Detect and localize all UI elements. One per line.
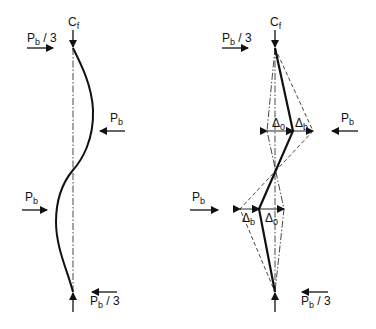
column-buckling-diagram: Cf Pb / 3 Pb Pb Pb / 3 xyxy=(0,0,376,329)
left-mid-upper-force-label: Pb xyxy=(110,111,123,127)
right-lower-deltab-label: Δb xyxy=(242,211,255,227)
left-bottom-force-label: Pb / 3 xyxy=(90,294,120,310)
right-mid-upper-force-label: Pb xyxy=(341,111,354,127)
right-panel: Δ0 Δb Δb Δ0 Cf Pb / 3 Pb Pb xyxy=(190,15,358,312)
right-bottom-force-label: Pb / 3 xyxy=(301,294,331,310)
left-mid-lower-force-label: Pb xyxy=(25,190,38,206)
right-top-load-label: Cf xyxy=(270,15,282,31)
left-top-force-label: Pb / 3 xyxy=(27,31,57,47)
right-top-force-label: Pb / 3 xyxy=(222,31,252,47)
right-lower-delta0-label: Δ0 xyxy=(265,211,278,227)
right-mid-lower-force-label: Pb xyxy=(192,190,205,206)
left-panel: Cf Pb / 3 Pb Pb Pb / 3 xyxy=(22,15,125,312)
right-upper-delta0-label: Δ0 xyxy=(272,116,285,132)
left-top-load-label: Cf xyxy=(68,15,80,31)
right-column-shape xyxy=(259,48,293,292)
right-upper-deltab-label: Δb xyxy=(295,116,308,132)
left-column-curve xyxy=(56,48,93,292)
